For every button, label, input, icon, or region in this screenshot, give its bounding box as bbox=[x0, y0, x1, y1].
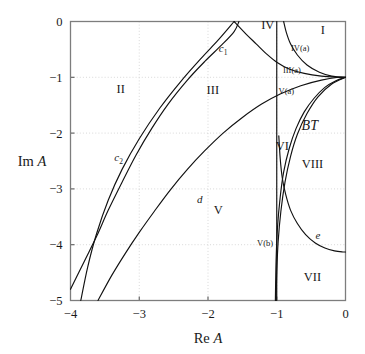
region-labels: IIIIIIIVIV(a)III(a)V(a)BTVIVIIIVV(b)VII bbox=[117, 18, 325, 284]
x-tick-label: −3 bbox=[133, 307, 146, 321]
y-tick-label: −2 bbox=[49, 127, 62, 141]
bifurcation-diagram: −4−3−2−100−1−2−3−4−5 IIIIIIIVIV(a)III(a)… bbox=[0, 0, 365, 354]
curve-label-subscript: 2 bbox=[119, 157, 123, 166]
region-label-iii: III bbox=[207, 83, 220, 97]
y-axis-symbol: A bbox=[36, 153, 46, 169]
region-label-va: V(a) bbox=[279, 86, 295, 96]
curve-label-c1: c1 bbox=[219, 42, 228, 57]
region-label-vii: VII bbox=[304, 270, 321, 284]
region-label-v: V bbox=[214, 203, 223, 217]
region-label-bt: BT bbox=[302, 118, 320, 133]
region-label-viii: VIII bbox=[302, 157, 324, 171]
y-axis-title: Im A bbox=[18, 153, 47, 169]
region-label-iva: IV(a) bbox=[291, 43, 310, 53]
curve-label-d: d bbox=[197, 193, 203, 205]
y-tick-label: −3 bbox=[49, 182, 62, 196]
y-tick-label: 0 bbox=[56, 15, 62, 29]
x-tick-label: −2 bbox=[201, 307, 214, 321]
curve-label-c2: c2 bbox=[114, 151, 123, 166]
figure-container: −4−3−2−100−1−2−3−4−5 IIIIIIIVIV(a)III(a)… bbox=[0, 0, 365, 354]
curve-label-subscript: 1 bbox=[224, 48, 228, 57]
region-label-iv: IV bbox=[261, 18, 274, 32]
curve-e bbox=[279, 136, 346, 252]
curve-vi-boundary bbox=[276, 77, 345, 300]
x-axis-title: Re A bbox=[194, 330, 223, 346]
x-tick-label: −1 bbox=[270, 307, 283, 321]
region-label-i: I bbox=[321, 23, 325, 37]
curve-c2 bbox=[71, 22, 239, 290]
x-tick-label: 0 bbox=[342, 307, 348, 321]
y-tick-label: −4 bbox=[49, 238, 63, 252]
region-label-iiia: III(a) bbox=[283, 65, 301, 75]
region-label-ii: II bbox=[117, 82, 125, 96]
x-tick-label: −4 bbox=[64, 307, 78, 321]
y-tick-label: −5 bbox=[49, 294, 62, 308]
curve-label-e: e bbox=[316, 229, 321, 241]
region-label-vi: VI bbox=[276, 139, 289, 153]
x-axis-symbol: A bbox=[212, 330, 222, 346]
region-label-vb: V(b) bbox=[257, 238, 273, 248]
curve-c1-left-branch bbox=[81, 22, 234, 301]
y-tick-label: −1 bbox=[49, 71, 62, 85]
